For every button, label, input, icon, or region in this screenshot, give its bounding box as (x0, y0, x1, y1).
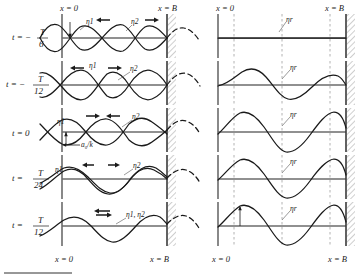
wave-superposition-figure: x = 0 x = B x = 0 x = B t = − T 6 (0, 0, 364, 277)
row-4-time-prefix: t = (12, 173, 23, 183)
row-2-eta1-label: η1 (89, 61, 96, 70)
row-3-eta2-label: η2 (132, 112, 140, 121)
left-panel-bottom-xB-label: x = B (149, 254, 169, 264)
row-1-etar-label: ηr (286, 15, 293, 24)
right-panel-top-x0-label: x = 0 (215, 3, 235, 13)
row-5-right-wall-hatch (346, 202, 355, 246)
row-4-right-wall-hatch (346, 155, 355, 199)
row-3-amplitude-label: a₀/k (81, 140, 93, 149)
row-2-eta2-label: η2 (130, 64, 138, 73)
row-3-left-wall-hatch (167, 108, 176, 152)
row-5-left-wall-hatch (167, 202, 176, 246)
row-4-eta1-label: η1 (55, 165, 62, 174)
row-2-etar-label: ηr (290, 63, 297, 72)
row-5-time-prefix: t = (12, 220, 23, 230)
row-2-right-wall-hatch (346, 61, 355, 105)
row-3-right-wall-hatch (346, 108, 355, 152)
row-5-etar-label: ηr (290, 204, 297, 213)
left-panel-bottom-x0-label: x = 0 (54, 254, 74, 264)
row-2-time-denominator: 12 (34, 86, 44, 96)
row-3-time-full: t = 0 (12, 128, 30, 138)
row-1-eta2-label: η2 (131, 17, 139, 26)
right-panel-top-xB-label: x = B (324, 3, 344, 13)
row-4-eta2-label: η2 (133, 161, 141, 170)
row-3-etar-label: ηr (290, 110, 297, 119)
left-panel-top-xB-label: x = B (157, 3, 177, 13)
row-3-time-label: t = 0 (12, 128, 30, 138)
right-panel-bottom-xB-label: x = B (327, 254, 347, 264)
row-1-time-prefix: t = − (12, 32, 31, 42)
left-panel-top-x0-label: x = 0 (59, 3, 79, 13)
row-1-right-wall-hatch (346, 14, 355, 58)
row-2-time-prefix: t = − (6, 79, 25, 89)
row-3-eta1-label: η1 (57, 117, 64, 126)
row-1-eta1-label: η1 (86, 17, 93, 26)
row-5-eta-both-label: η1, η2 (126, 210, 145, 219)
right-panel-bottom-x0-label: x = 0 (211, 254, 231, 264)
row-4-etar-label: ηr (290, 157, 297, 166)
